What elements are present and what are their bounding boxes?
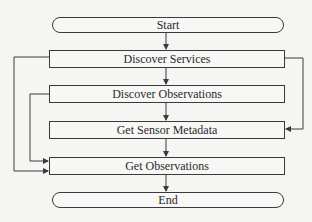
node-discover-services-label: Discover Services — [124, 53, 211, 65]
node-discover-observations: Discover Observations — [49, 85, 285, 103]
node-discover-observations-label: Discover Observations — [112, 88, 222, 100]
arrow-discover-services-to-get-observations — [14, 57, 49, 171]
node-get-sensor-metadata: Get Sensor Metadata — [49, 121, 285, 139]
node-start: Start — [52, 17, 284, 33]
arrow-discover-observations-to-get-observations — [30, 94, 49, 161]
node-end-label: End — [158, 194, 177, 206]
connector-lines — [0, 0, 312, 222]
arrow-discover-services-to-get-sensor-metadata — [284, 58, 303, 129]
node-get-observations: Get Observations — [49, 157, 285, 175]
node-discover-services: Discover Services — [49, 50, 285, 68]
node-get-sensor-metadata-label: Get Sensor Metadata — [117, 124, 218, 136]
node-start-label: Start — [157, 19, 180, 31]
node-end: End — [52, 192, 284, 208]
node-get-observations-label: Get Observations — [125, 160, 209, 172]
